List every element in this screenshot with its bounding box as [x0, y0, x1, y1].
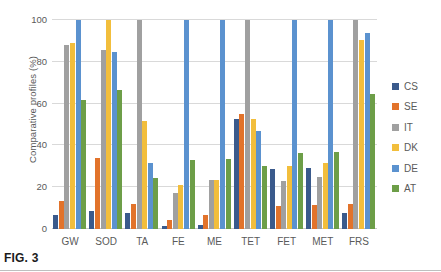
bar-group-tet: TET [233, 20, 269, 229]
bar-fe-se[interactable] [167, 220, 172, 229]
bar-group-frs: FRS [341, 20, 377, 229]
legend-swatch-se-icon [392, 103, 399, 110]
bar-ta-at[interactable] [153, 178, 158, 229]
bar-fe-it[interactable] [173, 193, 178, 229]
x-tick-label-frs: FRS [341, 236, 377, 247]
bar-ta-cs[interactable] [125, 213, 130, 229]
bar-gw-at[interactable] [81, 100, 86, 229]
x-tick-label-sod: SOD [88, 236, 124, 247]
y-tick-label: 80 [36, 55, 47, 66]
bar-group-gw: GW [52, 20, 88, 229]
y-axis-title: Comparative profiles (%) [27, 30, 38, 190]
legend-item-dk[interactable]: DK [392, 138, 440, 159]
figure-3: Comparative profiles (%) 020406080100 GW… [0, 0, 441, 272]
bar-frs-dk[interactable] [359, 40, 364, 229]
bar-me-de[interactable] [220, 20, 225, 229]
bar-tet-cs[interactable] [234, 119, 239, 229]
caption-divider [0, 270, 441, 271]
bar-fet-it[interactable] [281, 181, 286, 229]
bar-fe-at[interactable] [190, 160, 195, 229]
bar-gw-cs[interactable] [53, 215, 58, 229]
legend-label: CS [404, 81, 418, 92]
bar-gw-it[interactable] [64, 45, 69, 229]
plot-area: 020406080100 GWSODTAFEMETETFETMETFRS [52, 20, 377, 229]
bar-frs-cs[interactable] [342, 213, 347, 229]
bar-met-dk[interactable] [323, 163, 328, 229]
bar-fe-de[interactable] [184, 20, 189, 229]
bar-tet-it[interactable] [245, 20, 250, 229]
bar-sod-dk[interactable] [106, 20, 111, 229]
bar-chart: Comparative profiles (%) 020406080100 GW… [0, 0, 441, 248]
x-tick-label-fet: FET [269, 236, 305, 247]
bar-group-ta: TA [124, 20, 160, 229]
bar-tet-at[interactable] [262, 166, 267, 229]
legend-label: AT [404, 183, 416, 194]
bar-group-sod: SOD [88, 20, 124, 229]
legend-swatch-de-icon [392, 165, 399, 172]
bar-ta-it[interactable] [137, 20, 142, 229]
bar-groups: GWSODTAFEMETETFETMETFRS [52, 20, 377, 229]
bar-tet-dk[interactable] [251, 119, 256, 229]
bar-fe-dk[interactable] [178, 185, 183, 229]
bar-ta-de[interactable] [148, 163, 153, 229]
bar-fe-cs[interactable] [162, 226, 167, 229]
legend-label: IT [404, 122, 413, 133]
legend-item-at[interactable]: AT [392, 179, 440, 200]
bar-tet-se[interactable] [239, 114, 244, 229]
bar-met-cs[interactable] [306, 168, 311, 229]
x-tick-label-me: ME [196, 236, 232, 247]
legend-swatch-dk-icon [392, 144, 399, 151]
bar-met-at[interactable] [334, 152, 339, 229]
bar-me-cs[interactable] [198, 225, 203, 229]
bar-frs-se[interactable] [348, 204, 353, 229]
bar-group-fet: FET [269, 20, 305, 229]
legend-item-it[interactable]: IT [392, 117, 440, 138]
bar-fet-cs[interactable] [270, 169, 275, 229]
bar-me-dk[interactable] [214, 180, 219, 229]
legend-swatch-it-icon [392, 124, 399, 131]
bar-gw-dk[interactable] [70, 43, 75, 229]
legend-item-se[interactable]: SE [392, 97, 440, 118]
y-tick-label: 60 [36, 97, 47, 108]
legend-label: DK [404, 142, 418, 153]
bar-ta-se[interactable] [131, 204, 136, 229]
bar-fet-se[interactable] [276, 206, 281, 229]
bar-sod-at[interactable] [117, 90, 122, 229]
bar-sod-se[interactable] [95, 158, 100, 229]
bar-sod-it[interactable] [101, 50, 106, 229]
legend-swatch-cs-icon [392, 83, 399, 90]
bar-fet-de[interactable] [292, 20, 297, 229]
bar-frs-it[interactable] [353, 20, 358, 229]
bar-gw-se[interactable] [59, 201, 64, 229]
y-tick-label: 0 [42, 223, 47, 234]
bar-ta-dk[interactable] [142, 121, 147, 229]
x-tick-label-met: MET [305, 236, 341, 247]
bar-me-it[interactable] [209, 180, 214, 229]
y-tick-label: 20 [36, 181, 47, 192]
bar-group-met: MET [305, 20, 341, 229]
bar-me-at[interactable] [226, 159, 231, 229]
bar-group-fe: FE [160, 20, 196, 229]
bar-met-se[interactable] [312, 205, 317, 229]
legend-item-de[interactable]: DE [392, 158, 440, 179]
x-tick-label-fe: FE [160, 236, 196, 247]
x-tick-label-tet: TET [233, 236, 269, 247]
bar-met-it[interactable] [317, 177, 322, 229]
bar-met-de[interactable] [328, 20, 333, 229]
bar-fet-dk[interactable] [287, 166, 292, 229]
chart-legend: CSSEITDKDEAT [392, 76, 440, 199]
figure-caption: FIG. 3 [4, 251, 39, 265]
caption-bar: FIG. 3 [0, 249, 441, 272]
bar-me-se[interactable] [203, 215, 208, 229]
bar-gw-de[interactable] [76, 20, 81, 229]
y-tick-label: 100 [31, 14, 47, 25]
bar-fet-at[interactable] [298, 153, 303, 229]
bar-frs-de[interactable] [365, 33, 370, 229]
bar-sod-de[interactable] [112, 52, 117, 229]
legend-label: SE [404, 101, 417, 112]
bar-tet-de[interactable] [256, 131, 261, 229]
legend-item-cs[interactable]: CS [392, 76, 440, 97]
legend-label: DE [404, 163, 418, 174]
bar-frs-at[interactable] [370, 94, 375, 229]
bar-sod-cs[interactable] [89, 211, 94, 229]
